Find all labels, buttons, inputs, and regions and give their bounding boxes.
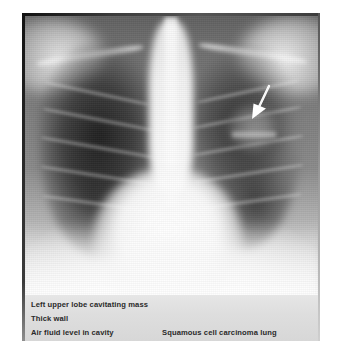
plate-right-border	[318, 13, 320, 341]
caption-finding-mass: Left upper lobe cavitating mass	[31, 300, 148, 309]
plate-top-border	[22, 13, 320, 16]
caption-diagnosis: Squamous cell carcinoma lung	[162, 328, 277, 337]
mediastinum	[149, 21, 193, 191]
cavitating-mass-lesion	[222, 99, 284, 157]
figure-root: Left upper lobe cavitating mass Thick wa…	[0, 0, 342, 358]
chest-xray-image: Left upper lobe cavitating mass Thick wa…	[22, 13, 320, 341]
caption-finding-air-fluid-level: Air fluid level in cavity	[31, 328, 114, 337]
thorax-field	[22, 13, 320, 295]
plate-left-border	[22, 13, 25, 341]
caption-band: Left upper lobe cavitating mass Thick wa…	[22, 295, 320, 341]
caption-finding-thick-wall: Thick wall	[31, 314, 68, 323]
diaphragm	[22, 223, 320, 295]
air-fluid-level	[232, 131, 276, 138]
